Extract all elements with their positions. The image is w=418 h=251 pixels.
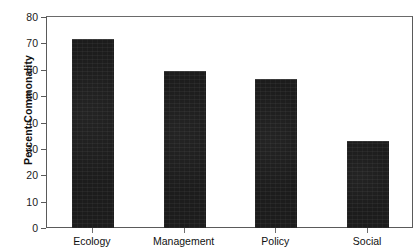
bar-ecology [72,39,114,228]
y-tick-mark [41,228,46,229]
plot-area [46,16,413,228]
x-tick-mark [184,228,185,233]
y-tick-label: 80 [8,12,38,22]
bar-chart: Percent Commonality 01020304050607080 Ec… [0,0,418,251]
y-tick-label: 30 [8,144,38,154]
bar-management [164,71,206,228]
bar-social [347,141,389,228]
y-tick-label: 10 [8,197,38,207]
y-tick-label: 60 [8,65,38,75]
x-tick-mark [367,228,368,233]
y-tick-label: 50 [8,91,38,101]
x-axis-label-social: Social [307,235,418,247]
x-tick-mark [275,228,276,233]
y-axis-title: Percent Commonality [22,30,34,190]
y-tick-label: 20 [8,170,38,180]
y-tick-label: 70 [8,38,38,48]
y-tick-label: 40 [8,118,38,128]
bar-policy [255,79,297,228]
y-tick-label: 0 [8,223,38,233]
x-tick-mark [92,228,93,233]
